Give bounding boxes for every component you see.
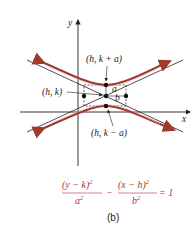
svg-text:b2: b2: [132, 194, 141, 206]
hyperbola-equation: (y − k)2 a2 − (x − h)2 b2 = 1: [62, 178, 173, 206]
figure-caption: (b): [107, 212, 119, 223]
left-co-vertex-point: [82, 94, 86, 98]
svg-text:a2: a2: [75, 194, 84, 206]
svg-text:= 1: = 1: [159, 187, 173, 198]
upper-branch: [42, 62, 168, 85]
segment-b-label: b: [115, 93, 120, 103]
svg-text:−: −: [106, 187, 113, 198]
center-label: (h, k): [42, 87, 62, 98]
y-axis-label: y: [67, 18, 73, 28]
lower-vertex-label: (h, k − a): [91, 128, 127, 139]
svg-text:(y − k)2: (y − k)2: [62, 178, 93, 191]
upper-vertex-label: (h, k + a): [86, 54, 122, 65]
hyperbola-diagram: y x a b (h, k + a) (h, k) (h, k − a) (y …: [0, 0, 196, 229]
svg-text:(x − h)2: (x − h)2: [118, 178, 150, 191]
x-axis-label: x: [181, 114, 187, 124]
lower-vertex-point: [104, 104, 108, 108]
